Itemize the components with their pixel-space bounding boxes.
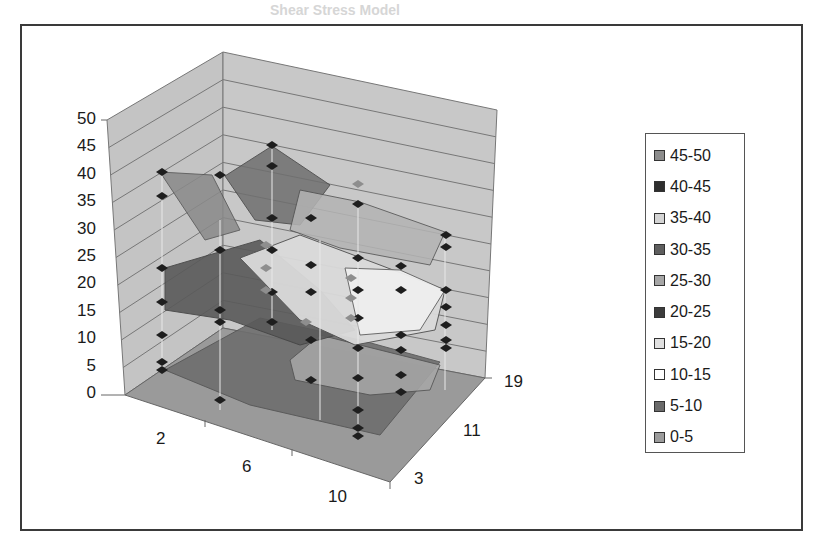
- legend-swatch: [654, 213, 665, 224]
- legend-swatch: [654, 244, 665, 255]
- legend-item: 25-30: [654, 265, 744, 296]
- legend-item: 35-40: [654, 203, 744, 234]
- legend-item: 20-25: [654, 296, 744, 327]
- legend-label: 0-5: [670, 428, 693, 446]
- legend-label: 25-30: [670, 272, 711, 290]
- z-tick-0: 0: [66, 384, 96, 401]
- legend-swatch: [654, 338, 665, 349]
- legend-item: 5-10: [654, 390, 744, 421]
- legend-swatch: [654, 275, 665, 286]
- z-tick-50: 50: [66, 110, 96, 127]
- legend-item: 45-50: [654, 140, 744, 171]
- x-tick-10: 10: [328, 488, 347, 505]
- z-tick-40: 40: [66, 165, 96, 182]
- y-tick-3: 3: [414, 470, 423, 487]
- legend-label: 20-25: [670, 303, 711, 321]
- legend-swatch: [654, 150, 665, 161]
- legend-item: 0-5: [654, 422, 744, 453]
- legend-swatch: [654, 401, 665, 412]
- z-tick-20: 20: [66, 274, 96, 291]
- x-tick-2: 2: [156, 430, 165, 447]
- legend-swatch: [654, 369, 665, 380]
- legend-item: 10-15: [654, 359, 744, 390]
- legend-label: 10-15: [670, 366, 711, 384]
- legend-swatch: [654, 432, 665, 443]
- z-tick-10: 10: [66, 329, 96, 346]
- z-tick-30: 30: [66, 220, 96, 237]
- z-tick-25: 25: [66, 247, 96, 264]
- legend-label: 15-20: [670, 334, 711, 352]
- legend-item: 30-35: [654, 234, 744, 265]
- legend-label: 30-35: [670, 241, 711, 259]
- x-tick-6: 6: [242, 458, 251, 475]
- legend-label: 5-10: [670, 397, 702, 415]
- y-tick-19: 19: [504, 373, 523, 390]
- legend-item: 15-20: [654, 328, 744, 359]
- legend-swatch: [654, 181, 665, 192]
- z-tick-15: 15: [66, 302, 96, 319]
- z-tick-35: 35: [66, 192, 96, 209]
- legend-label: 35-40: [670, 209, 711, 227]
- z-tick-45: 45: [66, 137, 96, 154]
- legend-label: 45-50: [670, 147, 711, 165]
- y-tick-11: 11: [463, 422, 481, 439]
- z-tick-5: 5: [66, 357, 96, 374]
- legend-item: 40-45: [654, 171, 744, 202]
- legend-swatch: [654, 307, 665, 318]
- legend-label: 40-45: [670, 178, 711, 196]
- legend: 45-50 40-45 35-40 30-35 25-30 20-25 15-2…: [645, 133, 745, 453]
